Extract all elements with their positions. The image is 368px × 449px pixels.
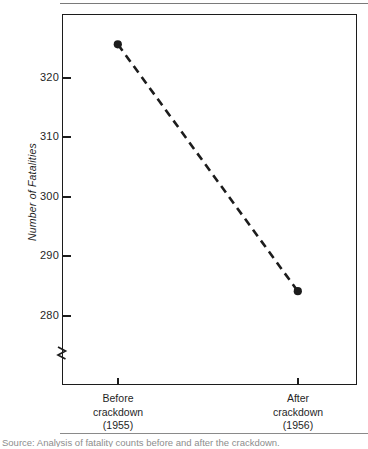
y-tick-mark-280 — [63, 315, 71, 317]
x-category-after-line1: After — [233, 392, 363, 406]
x-category-before-line3: (1955) — [53, 419, 183, 433]
y-tick-label-280: 280 — [19, 310, 59, 321]
y-tick-label-320: 320 — [19, 72, 59, 83]
x-category-after-line2: crackdown — [233, 406, 363, 420]
x-category-after-line3: (1956) — [233, 419, 363, 433]
x-tick-mark-before — [117, 378, 119, 385]
x-category-label-before: Before crackdown (1955) — [53, 392, 183, 433]
x-tick-mark-after — [297, 378, 299, 385]
y-tick-mark-290 — [63, 255, 71, 257]
source-caption: Source: Analysis of fatality counts befo… — [2, 437, 366, 447]
x-category-before-line2: crackdown — [53, 406, 183, 420]
figure-container: Number of Fatalities 320 310 300 290 280… — [0, 0, 368, 449]
y-tick-mark-300 — [63, 196, 71, 198]
plot-frame — [62, 14, 357, 385]
x-category-before-line1: Before — [53, 392, 183, 406]
page-rule-bottom — [60, 433, 368, 434]
y-tick-mark-310 — [63, 136, 71, 138]
y-tick-mark-320 — [63, 77, 71, 79]
y-axis-break-icon — [55, 344, 73, 362]
y-tick-label-310: 310 — [19, 131, 59, 142]
y-tick-label-290: 290 — [19, 250, 59, 261]
y-tick-label-300: 300 — [19, 191, 59, 202]
x-category-label-after: After crackdown (1956) — [233, 392, 363, 433]
